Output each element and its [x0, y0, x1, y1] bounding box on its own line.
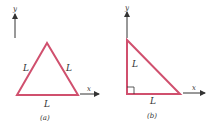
- diagram-canvas: y x L L L (a) y x L L (b): [0, 0, 210, 129]
- side-label-base: L: [149, 96, 156, 106]
- side-label-right: L: [65, 63, 72, 73]
- x-axis-label: x: [87, 85, 91, 93]
- side-label-vertical: L: [131, 59, 138, 69]
- x-axis-label: x: [192, 84, 196, 92]
- panel-caption: (b): [147, 112, 157, 120]
- side-label-left: L: [22, 63, 29, 73]
- panel-b: y x L L (b): [124, 4, 205, 120]
- y-axis-label: y: [124, 4, 130, 12]
- panel-a: y x L L L (a): [12, 5, 99, 122]
- y-axis-label: y: [12, 5, 18, 13]
- side-label-base: L: [43, 99, 50, 109]
- panel-caption: (a): [40, 114, 50, 122]
- right-angle-marker: [127, 87, 134, 94]
